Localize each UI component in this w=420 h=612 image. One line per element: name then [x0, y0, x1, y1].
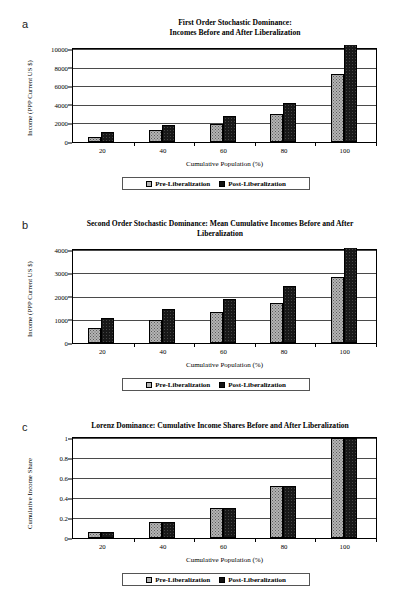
bar-pre-liberalization [88, 532, 101, 538]
x-tick-mark [255, 343, 256, 347]
x-tick-label: 40 [159, 147, 166, 154]
y-tick-label: 0.4 [60, 495, 69, 502]
x-tick-label: 20 [99, 543, 106, 550]
legend-label-post: Post-Liberalization [228, 576, 286, 584]
bar-pre-liberalization [149, 130, 162, 142]
panel-a: a First Order Stochastic Dominance: Inco… [0, 18, 420, 203]
legend-swatch-post-icon [219, 577, 225, 583]
legend-item-post: Post-Liberalization [219, 180, 286, 188]
y-tick-label: 0.2 [60, 515, 69, 522]
bar-pre-liberalization [210, 508, 223, 539]
gridline [73, 273, 376, 274]
panel-letter-b: b [22, 219, 28, 231]
x-tick-label: 60 [220, 348, 227, 355]
bar-post-liberalization [101, 318, 114, 343]
y-tick-label: 0 [65, 535, 68, 542]
bar-pre-liberalization [210, 312, 223, 343]
y-tick-label: 10000 [51, 46, 68, 53]
x-tick-mark [315, 142, 316, 146]
y-tick-label: 1 [65, 435, 68, 442]
panel-a-plot-area [72, 48, 377, 143]
legend-label-pre: Pre-Liberalization [155, 180, 210, 188]
panel-b-xaxis-title: Cumulative Population (%) [72, 361, 377, 369]
x-tick-mark [134, 343, 135, 347]
legend-label-pre: Pre-Liberalization [155, 576, 210, 584]
x-tick-label: 40 [159, 348, 166, 355]
legend-item-post: Post-Liberalization [219, 576, 286, 584]
x-tick-mark [194, 343, 195, 347]
bar-pre-liberalization [331, 74, 344, 142]
y-tick-label: 0.6 [60, 475, 69, 482]
legend-item-pre: Pre-Liberalization [146, 180, 210, 188]
bar-post-liberalization [283, 286, 296, 343]
bar-pre-liberalization [331, 438, 344, 538]
x-tick-mark [315, 538, 316, 542]
y-tick-label: 1000 [54, 316, 68, 323]
x-tick-label: 40 [159, 543, 166, 550]
panel-letter-a: a [22, 18, 28, 30]
panel-a-title-line2: Incomes Before and After Liberalization [60, 28, 410, 38]
bar-post-liberalization [223, 116, 236, 142]
panel-c-xaxis-title: Cumulative Population (%) [72, 556, 377, 564]
bar-pre-liberalization [88, 328, 101, 343]
x-tick-label: 100 [340, 147, 350, 154]
legend-label-post: Post-Liberalization [228, 381, 286, 389]
panel-a-y-ticks: 0200040006000800010000 [30, 48, 68, 143]
panel-c-title: Lorenz Dominance: Cumulative Income Shar… [30, 421, 410, 431]
legend-label-pre: Pre-Liberalization [155, 381, 210, 389]
y-tick-label: 4000 [54, 101, 68, 108]
bar-pre-liberalization [331, 277, 344, 343]
gridline [73, 68, 376, 69]
y-tick-label: 4000 [54, 247, 68, 254]
y-tick-label: 0 [65, 139, 68, 146]
panel-b-title: Second Order Stochastic Dominance: Mean … [30, 219, 410, 239]
panel-c-plot-area [72, 437, 377, 539]
bar-pre-liberalization [270, 486, 283, 538]
panel-a-title-line1: First Order Stochastic Dominance: [60, 18, 410, 28]
y-tick-label: 2000 [54, 293, 68, 300]
bar-post-liberalization [344, 248, 357, 343]
panel-b-y-ticks: 01000200030004000 [30, 249, 68, 344]
panel-c-title-line1: Lorenz Dominance: Cumulative Income Shar… [30, 421, 410, 431]
x-tick-mark [376, 142, 377, 146]
panel-b-legend: Pre-Liberalization Post-Liberalization [122, 378, 310, 391]
panel-b-title-line1: Second Order Stochastic Dominance: Mean … [30, 219, 410, 229]
x-tick-mark [194, 142, 195, 146]
x-tick-label: 60 [220, 147, 227, 154]
y-tick-label: 6000 [54, 83, 68, 90]
x-tick-mark [315, 343, 316, 347]
bar-post-liberalization [283, 486, 296, 538]
legend-item-pre: Pre-Liberalization [146, 381, 210, 389]
x-tick-label: 100 [340, 348, 350, 355]
panel-c-y-ticks: 00.20.40.60.81 [30, 437, 68, 539]
panel-b: b Second Order Stochastic Dominance: Mea… [0, 219, 420, 404]
x-tick-label: 80 [281, 543, 288, 550]
x-tick-label: 20 [99, 348, 106, 355]
x-tick-mark [134, 538, 135, 542]
legend-swatch-pre-icon [146, 577, 152, 583]
bar-pre-liberalization [270, 303, 283, 343]
legend-item-post: Post-Liberalization [219, 381, 286, 389]
bar-post-liberalization [223, 508, 236, 538]
bar-post-liberalization [162, 125, 175, 142]
bar-post-liberalization [344, 438, 357, 538]
x-tick-label: 80 [281, 348, 288, 355]
bar-pre-liberalization [149, 522, 162, 539]
legend-label-post: Post-Liberalization [228, 180, 286, 188]
legend-swatch-pre-icon [146, 382, 152, 388]
bar-post-liberalization [101, 132, 114, 142]
legend-swatch-post-icon [219, 181, 225, 187]
panel-b-title-line2: Liberalization [30, 229, 410, 239]
panel-c-legend: Pre-Liberalization Post-Liberalization [122, 573, 310, 586]
bar-post-liberalization [344, 45, 357, 142]
bar-pre-liberalization [210, 124, 223, 142]
panel-c: c Lorenz Dominance: Cumulative Income Sh… [0, 421, 420, 606]
x-tick-label: 100 [340, 543, 350, 550]
x-tick-mark [134, 142, 135, 146]
x-tick-label: 20 [99, 147, 106, 154]
figure-page: a First Order Stochastic Dominance: Inco… [0, 0, 420, 612]
y-tick-label: 0.8 [60, 455, 69, 462]
panel-a-xaxis-title: Cumulative Population (%) [72, 160, 377, 168]
x-tick-mark [255, 538, 256, 542]
bar-pre-liberalization [270, 114, 283, 142]
